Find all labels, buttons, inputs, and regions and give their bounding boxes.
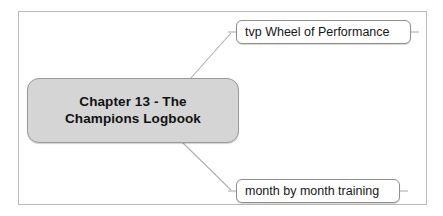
mindmap-branch-node-1-label: month by month training bbox=[245, 185, 379, 198]
mindmap-root-node-label: Chapter 13 - The Champions Logbook bbox=[65, 94, 201, 127]
mindmap-branch-node-1[interactable]: month by month training bbox=[236, 179, 400, 203]
mindmap-branch-node-0-label: tvp Wheel of Performance bbox=[245, 26, 390, 39]
mindmap-canvas: Chapter 13 - The Champions Logbook tvp W… bbox=[0, 0, 443, 216]
mindmap-root-node[interactable]: Chapter 13 - The Champions Logbook bbox=[27, 78, 239, 143]
mindmap-branch-node-0[interactable]: tvp Wheel of Performance bbox=[236, 20, 411, 44]
